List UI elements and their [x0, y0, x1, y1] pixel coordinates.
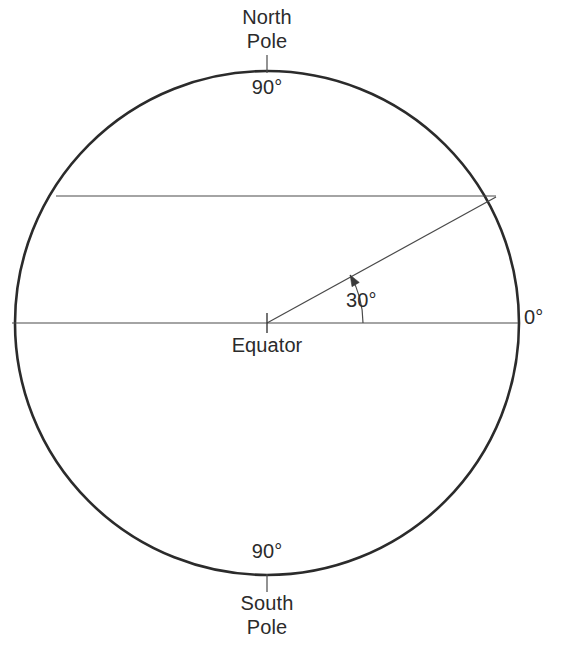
zero-degree-label: 0° [524, 306, 565, 330]
north-pole-label-line1: North [242, 6, 291, 28]
south-latitude-label: 90° [222, 540, 312, 564]
north-latitude-label: 90° [222, 76, 312, 100]
latitude-diagram: NorthPole 90° 30° 0° Equator 90° SouthPo… [0, 0, 565, 649]
angle-degree-label: 30° [346, 289, 416, 313]
south-pole-label-line2: Pole [247, 616, 287, 638]
south-pole-label-line1: South [241, 592, 294, 614]
north-pole-label-line2: Pole [247, 30, 287, 52]
angle-arrowhead [350, 275, 359, 287]
north-pole-label: NorthPole [187, 6, 347, 53]
south-pole-label: SouthPole [187, 592, 347, 639]
equator-label: Equator [187, 334, 347, 358]
